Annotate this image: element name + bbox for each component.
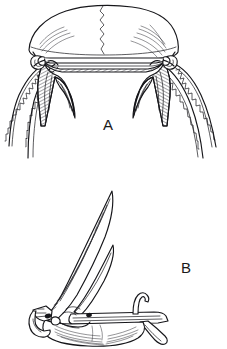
figure-b-drawing: B [29,191,191,346]
figure-b-label: B [181,259,191,276]
figure-b-median-hook [133,293,149,314]
figure-b-spine-base-left [51,317,60,325]
illustration-plate: A [0,0,227,349]
figure-a-drawing: A [5,5,216,158]
figure-a-right-spine-outer [170,62,216,147]
figure-b-long-spine [43,191,113,322]
figure-a-label: A [103,116,113,133]
figure-a-arch-hatch-band [40,58,167,72]
plate-canvas: A [0,0,227,349]
